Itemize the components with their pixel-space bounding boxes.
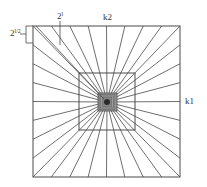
radial-line — [107, 26, 108, 102]
radial-line — [107, 102, 143, 177]
label-k2: k2 — [103, 13, 112, 22]
bracket-2-l-half — [20, 26, 33, 43]
label-2-pow-l-exp: l — [62, 11, 64, 17]
radial-line — [107, 64, 180, 102]
radial-line — [33, 102, 107, 103]
label-2-pow-l-half: 2l/2 — [10, 28, 21, 38]
radial-line — [88, 26, 107, 102]
radial-line — [107, 26, 143, 102]
radial-line — [107, 26, 180, 102]
label-k1: k1 — [185, 97, 194, 106]
label-2-pow-l: 2l — [57, 11, 63, 21]
radial-line — [33, 102, 107, 177]
radial-line — [107, 102, 108, 177]
diagonal-double-line — [36, 26, 104, 99]
radial-line — [33, 64, 107, 102]
radial-line — [107, 102, 180, 103]
radial-line — [88, 102, 107, 177]
radial-line — [70, 102, 107, 177]
center-point — [104, 99, 110, 105]
radial-line — [70, 26, 107, 102]
radial-line — [33, 83, 107, 102]
radial-line — [107, 102, 162, 177]
radial-line — [33, 102, 107, 139]
radial-line — [107, 26, 162, 102]
label-2-pow-l-half-exp: l/2 — [15, 28, 21, 34]
radial-line — [107, 83, 180, 102]
radial-line — [107, 102, 180, 177]
radial-grid-diagram — [0, 0, 207, 187]
radial-line — [107, 102, 180, 139]
